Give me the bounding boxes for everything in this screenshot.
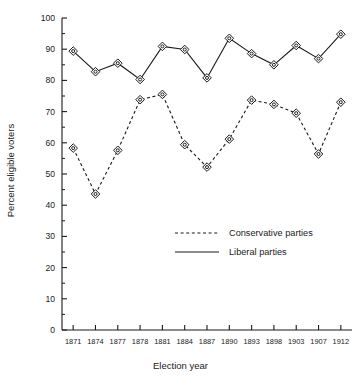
svg-text:30: 30: [45, 231, 55, 241]
data-point-marker: [247, 49, 256, 58]
data-point-marker: [69, 144, 78, 153]
data-point-marker: [158, 42, 167, 51]
data-point-marker: [314, 150, 323, 159]
data-point-marker: [292, 109, 301, 118]
svg-text:70: 70: [45, 107, 55, 117]
data-point-marker: [136, 75, 145, 84]
svg-text:20: 20: [45, 263, 55, 273]
svg-text:80: 80: [45, 75, 55, 85]
data-point-marker: [225, 135, 234, 144]
svg-text:10: 10: [45, 294, 55, 304]
data-point-marker: [114, 59, 123, 68]
svg-text:1898: 1898: [266, 337, 282, 346]
svg-text:0: 0: [50, 325, 55, 335]
svg-text:1884: 1884: [176, 337, 192, 346]
svg-text:1881: 1881: [154, 337, 170, 346]
svg-text:100: 100: [41, 13, 56, 23]
svg-text:1878: 1878: [132, 337, 148, 346]
svg-text:1912: 1912: [333, 337, 349, 346]
svg-text:1871: 1871: [65, 337, 81, 346]
data-point-marker: [247, 96, 256, 105]
data-point-marker: [114, 146, 123, 155]
svg-text:1890: 1890: [221, 337, 237, 346]
data-point-marker: [158, 90, 167, 99]
svg-text:1874: 1874: [87, 337, 103, 346]
legend-label: Conservative parties: [229, 228, 313, 238]
axes: 0102030405060708090100187118741877187818…: [41, 13, 352, 346]
svg-text:1903: 1903: [288, 337, 304, 346]
svg-text:60: 60: [45, 138, 55, 148]
svg-text:1907: 1907: [310, 337, 326, 346]
data-point-marker: [270, 100, 279, 109]
data-point-marker: [337, 98, 346, 107]
x-axis-label: Election year: [0, 360, 361, 371]
legend-label: Liberal parties: [229, 247, 287, 257]
chart-figure: Percent eligible voters 0102030405060708…: [0, 0, 361, 385]
plot-area: 0102030405060708090100187118741877187818…: [0, 0, 361, 385]
svg-text:1893: 1893: [243, 337, 259, 346]
data-series: [69, 30, 345, 198]
svg-text:40: 40: [45, 200, 55, 210]
chart-legend: Conservative partiesLiberal parties: [175, 228, 313, 257]
svg-text:1877: 1877: [110, 337, 126, 346]
data-point-marker: [136, 95, 145, 104]
svg-text:1887: 1887: [199, 337, 215, 346]
svg-text:90: 90: [45, 44, 55, 54]
svg-text:50: 50: [45, 169, 55, 179]
data-point-marker: [225, 34, 234, 43]
data-point-marker: [91, 190, 100, 199]
